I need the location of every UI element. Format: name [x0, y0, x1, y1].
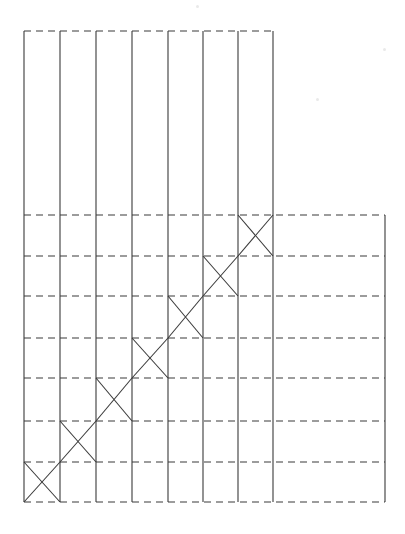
scan-speck-0 — [196, 5, 199, 8]
lattice-diagram-svg — [0, 0, 405, 534]
scan-speck-2 — [316, 98, 319, 101]
scan-speck-1 — [383, 48, 386, 51]
diagram-canvas — [0, 0, 405, 534]
